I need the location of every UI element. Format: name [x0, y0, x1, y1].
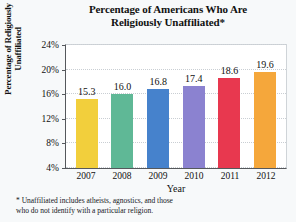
x-axis-tick-label: 2011 [219, 171, 241, 183]
x-axis-tick-labels: 200720082009201020112012 [65, 171, 287, 183]
chart-title-line-2: Religiously Unaffiliated* [48, 16, 288, 29]
bar-value-label: 19.6 [256, 59, 274, 70]
bar-slot: 19.6 [254, 45, 276, 168]
bar-slot: 16.8 [147, 45, 169, 168]
chart-footnote: * Unaffiliated includes atheists, agnost… [16, 196, 276, 215]
bar-value-label: 16.0 [114, 81, 132, 92]
bar: 16.0 [111, 94, 133, 168]
chart-title-line-1: Percentage of Americans Who Are [48, 3, 288, 16]
footnote-line-2: who do not identify with a particular re… [16, 206, 276, 216]
bar: 16.8 [147, 89, 169, 168]
bar: 15.3 [76, 99, 98, 168]
y-axis-tick-label: 12% [42, 114, 59, 124]
bar-slot: 18.6 [218, 45, 240, 168]
x-axis-tick-label: 2007 [75, 171, 97, 183]
bar: 18.6 [218, 78, 240, 168]
y-axis-tick-label: 16% [42, 89, 59, 99]
bar-slot: 15.3 [76, 45, 98, 168]
bar-value-label: 17.4 [185, 73, 203, 84]
y-axis-label-line-1: Percentage of Religiously [3, 3, 14, 95]
bar: 19.6 [254, 72, 276, 168]
chart-title: Percentage of Americans Who Are Religiou… [48, 3, 288, 28]
y-axis-tick-label: 8% [46, 138, 59, 148]
bar-value-label: 15.3 [78, 86, 96, 97]
chart-figure: Percentage of Americans Who Are Religiou… [0, 0, 296, 222]
y-axis-label-line-2: Unaffiliated [13, 3, 24, 95]
bar: 17.4 [183, 86, 205, 168]
x-axis-label: Year [65, 183, 287, 194]
y-axis-tick-label: 24% [42, 40, 59, 50]
bar-slot: 16.0 [111, 45, 133, 168]
bar-series: 15.316.016.817.418.619.6 [66, 45, 286, 168]
bar-slot: 17.4 [183, 45, 205, 168]
bar-value-label: 18.6 [221, 65, 239, 76]
footnote-line-1: * Unaffiliated includes atheists, agnost… [16, 196, 276, 206]
y-axis-label: Percentage of Religiously Unaffiliated [0, 0, 26, 114]
bar-value-label: 16.8 [149, 76, 167, 87]
x-axis-tick-label: 2008 [111, 171, 133, 183]
x-axis-tick-label: 2009 [147, 171, 169, 183]
y-axis-tick-label: 4% [46, 163, 59, 173]
x-axis-tick-label: 2010 [183, 171, 205, 183]
plot-area: 4%8%12%16%20%24% 15.316.016.817.418.619.… [65, 44, 287, 169]
y-axis-tick [62, 168, 66, 169]
x-axis-tick-label: 2012 [255, 171, 277, 183]
y-axis-tick-label: 20% [42, 65, 59, 75]
